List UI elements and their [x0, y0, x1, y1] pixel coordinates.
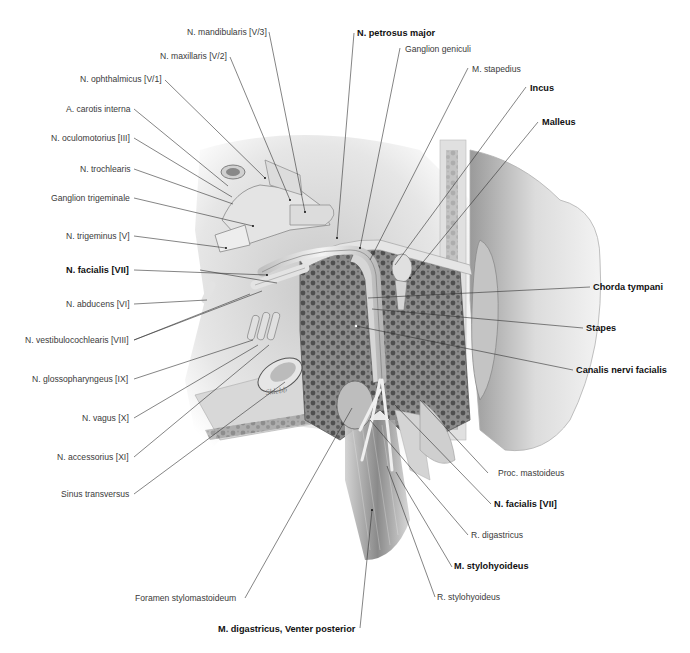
label-n-accessorius: N. accessorius [XI]	[57, 452, 129, 462]
label-n-oculomotorius: N. oculomotorius [III]	[51, 133, 130, 143]
label-incus: Incus	[530, 83, 554, 93]
anatomy-figure: Sklebb	[0, 0, 690, 653]
label-n-mandibularis: N. mandibularis [V/3]	[187, 27, 267, 37]
malleus-incus	[392, 254, 412, 282]
label-n-trochlearis: N. trochlearis	[80, 164, 131, 174]
label-n-ophthalmicus: N. ophthalmicus [V/1]	[80, 74, 162, 84]
label-chorda-tympani: Chorda tympani	[593, 282, 663, 292]
label-malleus: Malleus	[542, 117, 576, 127]
label-r-digastricus: R. digastricus	[471, 530, 523, 540]
label-n-maxillaris: N. maxillaris [V/2]	[160, 51, 227, 61]
label-n-trigeminus: N. trigeminus [V]	[66, 231, 130, 241]
label-n-glossopharyngeus: N. glossopharyngeus [IX]	[32, 374, 128, 384]
label-sinus-transversus: Sinus transversus	[61, 489, 129, 499]
sigmoid-sinus	[337, 381, 373, 429]
label-m-digastricus-venter-posterior: M. digastricus, Venter posterior	[218, 624, 355, 634]
label-r-stylohyoideus: R. stylohyoideus	[437, 592, 500, 602]
label-n-abducens: N. abducens [VI]	[66, 299, 130, 309]
label-stapes: Stapes	[586, 323, 616, 333]
label-n-vestibulocochlearis: N. vestibulocochlearis [VIII]	[25, 335, 129, 345]
label-m-stylohyoideus: M. stylohyoideus	[454, 561, 529, 571]
label-canalis-nervi-facialis: Canalis nervi facialis	[576, 365, 667, 375]
label-m-stapedius: M. stapedius	[472, 64, 521, 74]
label-n-vagus: N. vagus [X]	[82, 413, 129, 423]
label-ganglion-trigeminale: Ganglion trigeminale	[51, 193, 130, 203]
label-n-petrosus-major: N. petrosus major	[357, 28, 435, 38]
label-ganglion-geniculi: Ganglion geniculi	[405, 44, 471, 54]
label-foramen-stylomastoideum: Foramen stylomastoideum	[135, 593, 236, 603]
label-a-carotis-interna: A. carotis interna	[66, 104, 130, 114]
label-proc-mastoideus: Proc. mastoideus	[498, 468, 564, 478]
label-n-facialis-right: N. facialis [VII]	[494, 499, 557, 509]
label-n-facialis-left: N. facialis [VII]	[66, 265, 129, 275]
